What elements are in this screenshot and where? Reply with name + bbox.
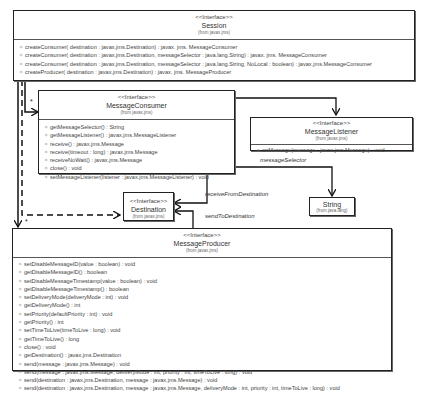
operation[interactable]: ✧setPriority(defaultPriority : int) : vo… xyxy=(18,310,391,318)
operations-compartment: ✧createConsumer( destination : javax.jms… xyxy=(14,39,414,78)
operation[interactable]: ✧getDestination() : javax.jms.Destinatio… xyxy=(18,351,391,359)
operation[interactable]: ✧send(message : javax.jms.Message) : voi… xyxy=(18,360,391,368)
operation[interactable]: ✧setDeliveryMode(deliveryMode : int) : v… xyxy=(18,293,391,301)
class-header: <<Interface>> Session (from javax.jms) xyxy=(14,11,414,39)
operation[interactable]: ✧onMessage(message : javax.jms.Message) … xyxy=(256,146,412,154)
operation[interactable]: ✧getDisableMessageTimestamp() : boolean xyxy=(18,285,391,293)
operation[interactable]: ✧setDisableMessageID(value : boolean) : … xyxy=(18,260,391,268)
message-producer-class[interactable]: <<Interface>> MessageProducer (from java… xyxy=(12,228,392,371)
package-note: (from javax.jms) xyxy=(124,214,173,220)
operation[interactable]: ✧receive(timeout : long) : javax.jms.Mes… xyxy=(44,148,234,156)
consumer-listener-association xyxy=(235,98,336,115)
class-name: MessageConsumer xyxy=(39,101,234,110)
operation[interactable]: ✧getDisableMessageID() : boolean xyxy=(18,268,391,276)
operations-compartment: ✧onMessage(message : javax.jms.Message) … xyxy=(251,144,412,156)
operation[interactable]: ✧setMessageListener(listener : javax.jms… xyxy=(44,173,234,181)
session-consumer-association xyxy=(25,80,38,112)
stereotype: <<Interface>> xyxy=(13,232,391,239)
message-listener-class[interactable]: <<Interface>> MessageListener (from java… xyxy=(250,117,413,151)
operation[interactable]: ✧send(message : javax.jms.Message, deliv… xyxy=(18,368,391,376)
class-header: <<Interface>> MessageConsumer (from java… xyxy=(39,91,234,119)
class-name: String xyxy=(310,201,354,208)
stereotype: <<Interface>> xyxy=(14,14,414,21)
package-note: (from javax.jms) xyxy=(13,248,391,254)
operation[interactable]: ✧close() : void xyxy=(18,343,391,351)
operations-compartment: ✧setDisableMessageID(value : boolean) : … xyxy=(13,257,391,395)
message-consumer-class[interactable]: <<Interface>> MessageConsumer (from java… xyxy=(38,90,235,174)
class-name: Session xyxy=(14,21,414,30)
operation[interactable]: ✧receiveNoWait() : javax.jms.Message xyxy=(44,156,234,164)
package-note: (from javax.jms) xyxy=(14,30,414,36)
operation[interactable]: ✧getMessageSelector() : String xyxy=(44,123,234,131)
session-class[interactable]: <<Interface>> Session (from javax.jms) ✧… xyxy=(13,10,415,81)
operation[interactable]: ✧send(destination : javax.jms.Destinatio… xyxy=(18,376,391,384)
operation[interactable]: ✧setDisableMessageTimestamp(value : bool… xyxy=(18,277,391,285)
package-note: (from javax.jms) xyxy=(39,110,234,116)
class-name: MessageListener xyxy=(251,127,412,136)
operation[interactable]: ✧createConsumer( destination : javax.jms… xyxy=(19,43,414,51)
class-header: <<Interface>> Destination (from javax.jm… xyxy=(124,193,173,223)
consumer-multiplicity: * xyxy=(30,98,33,105)
operations-compartment: ✧getMessageSelector() : String ✧getMessa… xyxy=(39,119,234,183)
message-selector-label: messageSelector xyxy=(260,157,306,163)
class-header: <<Interface>> MessageProducer (from java… xyxy=(13,229,391,257)
string-class[interactable]: String (from java.lang) xyxy=(309,197,355,216)
operation[interactable]: ✧getMessageListener() : javax.jms.Messag… xyxy=(44,131,234,139)
operation[interactable]: ✧send(destination : javax.jms.Destinatio… xyxy=(18,384,391,392)
package-note: (from java.lang) xyxy=(310,208,354,214)
send-to-destination-label: sendToDestination xyxy=(205,213,254,219)
operation[interactable]: ✧createConsumer( destination : javax.jms… xyxy=(19,51,414,59)
operation[interactable]: ✧receive() : javax.jms.Message xyxy=(44,140,234,148)
class-name: Destination xyxy=(124,205,173,214)
operation[interactable]: ✧createConsumer( destination : javax.jms… xyxy=(19,60,414,68)
operation[interactable]: ✧setTimeToLive(timeToLive : long) : void xyxy=(18,326,391,334)
stereotype: <<Interface>> xyxy=(251,120,412,127)
operation[interactable]: ✧getPriority() : int xyxy=(18,318,391,326)
class-header: String (from java.lang) xyxy=(310,198,354,217)
destination-class[interactable]: <<Interface>> Destination (from javax.jm… xyxy=(123,192,174,221)
class-header: <<Interface>> MessageListener (from java… xyxy=(251,118,412,144)
package-note: (from javax.jms) xyxy=(251,136,412,142)
operation[interactable]: ✧close() : void xyxy=(44,164,234,172)
stereotype: <<Interface>> xyxy=(124,198,173,205)
operation[interactable]: ✧getTimeToLive() : long xyxy=(18,335,391,343)
receive-from-destination-label: receiveFromDestination xyxy=(205,191,268,197)
class-name: MessageProducer xyxy=(13,239,391,248)
stereotype: <<Interface>> xyxy=(39,94,234,101)
producer-multiplicity: * xyxy=(25,218,28,225)
operation[interactable]: ✧getDeliveryMode() : int xyxy=(18,301,391,309)
producer-destination-association xyxy=(174,211,193,228)
operation[interactable]: ✧createProducer( destination : javax.jms… xyxy=(19,68,414,76)
